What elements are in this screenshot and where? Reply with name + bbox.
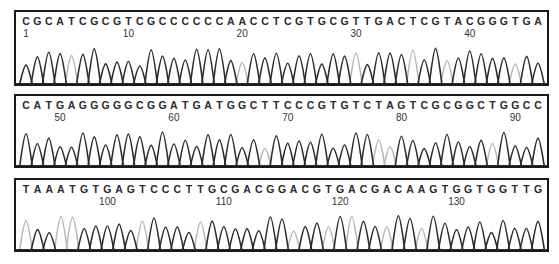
base-call: C — [45, 15, 53, 27]
base-call: C — [216, 15, 224, 27]
base-call: C — [193, 15, 201, 27]
base-call: G — [278, 183, 286, 195]
base-call: T — [307, 15, 313, 27]
base-call: C — [523, 99, 531, 111]
base-call: T — [325, 183, 331, 195]
base-call: A — [204, 99, 212, 111]
base-call: G — [313, 183, 321, 195]
base-call: G — [56, 99, 64, 111]
base-call: A — [115, 183, 123, 195]
base-call: C — [364, 99, 372, 111]
base-call: A — [418, 183, 426, 195]
base-call: A — [45, 183, 53, 195]
chromatogram-panel-3: TAAATGTGAGTCCCTTGCGACGGACGTGACGACAAGTGGT… — [14, 178, 549, 252]
base-call: T — [523, 183, 529, 195]
base-call: G — [208, 183, 216, 195]
base-call: C — [136, 99, 144, 111]
base-call: T — [375, 99, 381, 111]
base-call: G — [477, 15, 485, 27]
base-call: T — [182, 99, 188, 111]
base-call: G — [113, 99, 121, 111]
base-call: T — [444, 15, 450, 27]
base-call: G — [452, 183, 460, 195]
base-call: C — [466, 15, 474, 27]
base-call: G — [432, 99, 440, 111]
base-call: G — [147, 15, 155, 27]
base-call: A — [455, 15, 463, 27]
base-call: A — [227, 15, 235, 27]
base-call: C — [534, 99, 542, 111]
base-call: G — [318, 15, 326, 27]
base-call: G — [375, 15, 383, 27]
base-call: T — [69, 183, 75, 195]
base-call: A — [290, 183, 298, 195]
base-call: C — [220, 183, 228, 195]
base-call: G — [397, 99, 405, 111]
base-call: G — [238, 99, 246, 111]
base-call: G — [33, 15, 41, 27]
base-call: G — [500, 99, 508, 111]
base-call: C — [162, 183, 170, 195]
base-call: G — [158, 99, 166, 111]
base-call: T — [186, 183, 192, 195]
base-call: A — [348, 183, 356, 195]
base-call: G — [102, 99, 110, 111]
base-call: C — [420, 15, 428, 27]
base-call: T — [23, 183, 29, 195]
base-call: G — [318, 99, 326, 111]
base-call: T — [489, 99, 495, 111]
base-call: G — [488, 15, 496, 27]
base-call: A — [56, 15, 64, 27]
base-call: T — [273, 99, 279, 111]
base-call: C — [284, 15, 292, 27]
base-call: A — [34, 183, 42, 195]
base-call: C — [360, 183, 368, 195]
base-call: T — [330, 99, 336, 111]
chromatogram-panel-2: CATGAGGGGGCGGATGATGGCTTCCCGTGTCTAGTCGCGG… — [14, 94, 549, 168]
base-sequence: CGCATCGCGTCGCCCCCCAACCTCGTGCGTTGACTCGTAC… — [16, 15, 547, 29]
base-call: C — [477, 99, 485, 111]
base-call: T — [410, 99, 416, 111]
base-call: G — [340, 99, 348, 111]
base-call: G — [113, 15, 121, 27]
base-call: C — [22, 15, 30, 27]
base-call: G — [511, 99, 519, 111]
base-call: C — [395, 183, 403, 195]
base-call: T — [139, 183, 145, 195]
base-call: C — [102, 15, 110, 27]
base-call: A — [243, 183, 251, 195]
base-call: G — [90, 15, 98, 27]
base-call: C — [150, 183, 158, 195]
base-call: G — [432, 15, 440, 27]
base-call: A — [57, 183, 65, 195]
base-call: T — [410, 15, 416, 27]
chromatogram-trace — [16, 122, 547, 166]
base-call: T — [442, 183, 448, 195]
base-call: G — [124, 99, 132, 111]
base-call: C — [181, 15, 189, 27]
base-call: T — [216, 99, 222, 111]
base-call: T — [93, 183, 99, 195]
base-sequence: CATGAGGGGGCGGATGATGGCTTCCCGTGTCTAGTCGCGG… — [16, 99, 547, 113]
base-call: T — [353, 15, 359, 27]
base-call: A — [534, 15, 542, 27]
base-call: G — [499, 183, 507, 195]
base-call: T — [353, 99, 359, 111]
base-call: T — [477, 183, 483, 195]
base-call: A — [34, 99, 42, 111]
base-call: A — [238, 15, 246, 27]
base-call: C — [170, 15, 178, 27]
base-call: G — [127, 183, 135, 195]
base-call: T — [273, 15, 279, 27]
base-call: G — [340, 15, 348, 27]
base-call: G — [429, 183, 437, 195]
base-call: T — [262, 99, 268, 111]
base-call: G — [336, 183, 344, 195]
base-call: T — [364, 15, 370, 27]
base-call: G — [147, 99, 155, 111]
base-call: C — [284, 99, 292, 111]
base-call: C — [261, 15, 269, 27]
base-call: G — [79, 99, 87, 111]
base-call: C — [398, 15, 406, 27]
base-call: G — [534, 183, 542, 195]
